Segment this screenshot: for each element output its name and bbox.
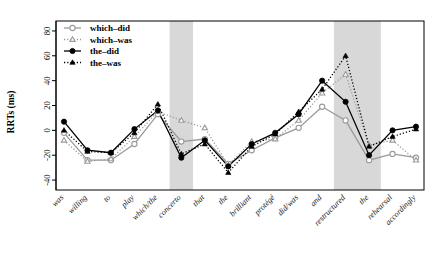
- data-point-marker: [390, 151, 395, 156]
- data-point-marker: [319, 87, 324, 92]
- legend-label-0: which–did: [90, 23, 130, 33]
- y-tick-label: 0: [42, 128, 52, 132]
- x-tick-label: concerto: [156, 193, 183, 220]
- y-axis-label: RRTs (ms): [6, 91, 17, 134]
- x-tick-label: brilliant: [228, 193, 254, 219]
- x-tick-label: that: [191, 193, 207, 209]
- legend-label-1: which–was: [90, 35, 133, 45]
- y-tick-label: -40: [42, 174, 52, 185]
- y-tick-label: 60: [42, 52, 52, 61]
- data-point-marker: [366, 158, 371, 163]
- x-tick-label: and: [308, 192, 324, 208]
- data-point-marker: [132, 141, 137, 146]
- axis-titles: RRTs (ms): [6, 91, 17, 134]
- data-point-marker: [61, 138, 66, 143]
- x-tick-label: protégé: [252, 193, 277, 218]
- data-point-marker: [390, 128, 395, 133]
- data-point-marker: [155, 102, 160, 107]
- legend-label-2: the–did: [90, 46, 119, 56]
- x-tick-label: play: [119, 193, 136, 210]
- data-point-marker: [320, 78, 325, 83]
- data-point-marker: [320, 104, 325, 109]
- data-point-marker: [226, 164, 231, 169]
- data-point-marker: [296, 125, 301, 130]
- data-point-marker: [179, 139, 184, 144]
- data-point-marker: [155, 108, 160, 113]
- x-tick-label: was: [50, 193, 65, 208]
- data-point-marker: [70, 48, 75, 53]
- x-tick-label: willing: [66, 193, 88, 215]
- shaded-band-1: [334, 21, 381, 190]
- data-point-marker: [61, 128, 66, 133]
- y-tick-label: 40: [42, 76, 52, 85]
- data-point-marker: [70, 37, 75, 42]
- y-tick-label: 20: [42, 101, 52, 110]
- data-point-marker: [343, 99, 348, 104]
- x-tick-label: which/the: [130, 193, 159, 222]
- legend-label-3: the–was: [90, 58, 121, 68]
- x-tick-label: to: [101, 193, 112, 204]
- rrt-line-chart: -40-20020406080 waswillingtoplaywhich/th…: [0, 0, 433, 264]
- data-point-marker: [202, 125, 207, 130]
- x-tick-label: the: [216, 193, 230, 207]
- chart-figure: -40-20020406080 waswillingtoplaywhich/th…: [0, 0, 433, 264]
- y-tick-label: 80: [42, 27, 52, 36]
- data-point-marker: [70, 25, 75, 30]
- y-tick-label: -20: [42, 150, 52, 161]
- x-axis: waswillingtoplaywhich/theconcertothatthe…: [50, 192, 418, 227]
- y-axis: -40-20020406080: [42, 21, 56, 190]
- x-tick-label: did/was: [276, 193, 300, 217]
- legend: which–didwhich–wasthe–didthe–was: [64, 23, 133, 67]
- data-point-marker: [61, 119, 66, 124]
- data-point-marker: [343, 118, 348, 123]
- x-tick-label: the: [357, 193, 371, 207]
- shaded-band-0: [170, 21, 193, 190]
- data-point-marker: [366, 153, 371, 158]
- shaded-bands: [170, 21, 381, 190]
